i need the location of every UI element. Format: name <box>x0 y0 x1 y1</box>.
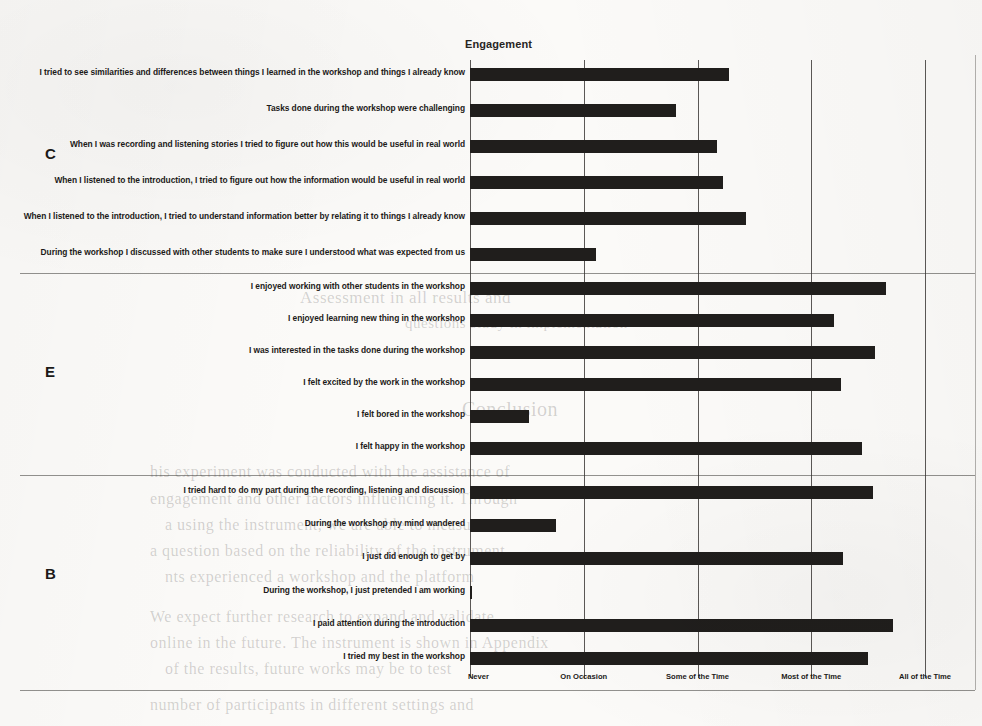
bar <box>470 212 746 225</box>
chart-row: I felt bored in the workshop <box>0 408 982 426</box>
bar <box>470 519 556 532</box>
chart-row: When I was recording and listening stori… <box>0 138 982 156</box>
chart-row: During the workshop, I just pretended I … <box>0 584 982 602</box>
bar <box>470 176 723 189</box>
chart-row: I tried hard to do my part during the re… <box>0 484 982 502</box>
bar <box>470 652 868 665</box>
x-tick-label-0: Never <box>468 672 489 681</box>
row-label: I enjoyed learning new thing in the work… <box>288 313 465 323</box>
bar <box>470 282 886 295</box>
x-tick-label-4: All of the Time <box>899 672 951 681</box>
group-separator-c-e <box>20 273 975 274</box>
chart-row: I enjoyed learning new thing in the work… <box>0 312 982 330</box>
chart-row: During the workshop I discussed with oth… <box>0 246 982 264</box>
group-letter-e: E <box>45 363 55 380</box>
chart-title: Engagement <box>465 38 532 50</box>
chart-row: I tried my best in the workshop <box>0 650 982 668</box>
engagement-bar-chart: Engagement I tried to see similarities a… <box>0 0 982 726</box>
row-label: I felt excited by the work in the worksh… <box>303 377 465 387</box>
chart-row: When I listened to the introduction, I t… <box>0 210 982 228</box>
chart-row: I enjoyed working with other students in… <box>0 280 982 298</box>
bar <box>470 486 873 499</box>
chart-row: During the workshop my mind wandered <box>0 517 982 535</box>
bar <box>470 248 596 261</box>
x-tick-label-1: On Occasion <box>560 672 607 681</box>
row-label: I tried to see similarities and differen… <box>40 67 465 77</box>
bar <box>470 552 843 565</box>
x-tick-label-3: Most of the Time <box>781 672 841 681</box>
row-label: I enjoyed working with other students in… <box>251 281 465 291</box>
bar <box>470 442 862 455</box>
bar <box>470 68 729 81</box>
row-label: I was interested in the tasks done durin… <box>249 345 465 355</box>
chart-row: I just did enough to get by <box>0 550 982 568</box>
row-label: I felt bored in the workshop <box>357 409 465 419</box>
row-label: When I listened to the introduction, I t… <box>24 211 465 221</box>
row-label: During the workshop I discussed with oth… <box>41 247 465 257</box>
chart-row: Tasks done during the workshop were chal… <box>0 102 982 120</box>
group-separator-e-b <box>20 475 975 476</box>
bar <box>470 140 717 153</box>
row-label: I tried my best in the workshop <box>343 651 465 661</box>
row-label: When I listened to the introduction, I t… <box>54 175 465 185</box>
bar <box>470 104 676 117</box>
chart-row: I felt excited by the work in the worksh… <box>0 376 982 394</box>
row-label: Tasks done during the workshop were chal… <box>266 103 465 113</box>
group-letter-b: B <box>45 565 56 582</box>
row-label: During the workshop my mind wandered <box>305 518 465 528</box>
bar <box>470 586 472 599</box>
chart-row: I paid attention during the introduction <box>0 617 982 635</box>
row-label: I just did enough to get by <box>362 551 465 561</box>
group-letter-c: C <box>45 145 56 162</box>
x-axis-line <box>20 690 975 691</box>
bar <box>470 346 875 359</box>
bar <box>470 619 893 632</box>
bar <box>470 410 529 423</box>
chart-row: When I listened to the introduction, I t… <box>0 174 982 192</box>
chart-row: I felt happy in the workshop <box>0 440 982 458</box>
row-label: I tried hard to do my part during the re… <box>183 485 465 495</box>
row-label: When I was recording and listening stori… <box>70 139 465 149</box>
chart-row: I tried to see similarities and differen… <box>0 66 982 84</box>
row-label: I paid attention during the introduction <box>313 618 465 628</box>
bar <box>470 314 834 327</box>
bar <box>470 378 841 391</box>
row-label: During the workshop, I just pretended I … <box>263 585 465 595</box>
x-tick-label-2: Some of the Time <box>666 672 729 681</box>
row-label: I felt happy in the workshop <box>356 441 465 451</box>
chart-row: I was interested in the tasks done durin… <box>0 344 982 362</box>
